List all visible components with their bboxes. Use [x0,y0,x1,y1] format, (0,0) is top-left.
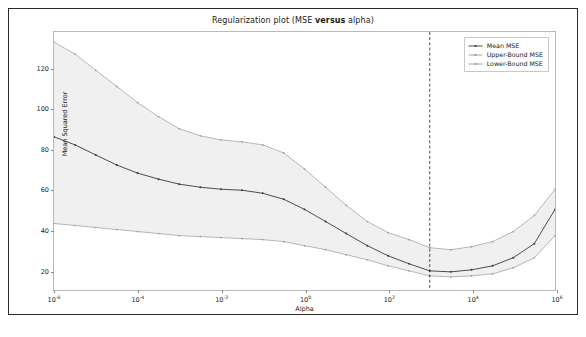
x-tick-mark [473,290,474,293]
series-point [178,128,180,130]
y-tick-mark [51,231,54,232]
series-point [450,271,452,273]
legend-item[interactable]: Mean MSE [468,41,543,50]
legend-item-label: Mean MSE [487,42,520,49]
plot-axes: Mean Squared Error 20406080100120 Alpha … [53,31,556,291]
series-point [325,249,327,251]
series-point [408,263,410,265]
series-point [450,276,452,278]
series-point [220,139,222,141]
x-tick-label: 10-6 [48,295,61,304]
series-point [533,257,535,259]
y-tick-label: 120 [37,65,49,73]
series-point [345,233,347,235]
series-point [471,269,473,271]
series-point [471,275,473,277]
series-point [492,241,494,243]
series-point [387,265,389,267]
series-point [74,144,76,146]
legend-item-label: Lower-Bound MSE [487,60,543,67]
series-point [304,168,306,170]
series-point [366,245,368,247]
series-point [492,265,494,267]
series-point [137,102,139,104]
x-tick-label: 106 [551,295,562,304]
series-point [408,239,410,241]
series-point [220,237,222,239]
series-point [533,215,535,217]
x-tick-label: 10-2 [215,295,228,304]
series-point [199,135,201,137]
chart-title-part-2: alpha) [345,16,374,25]
series-point [366,259,368,261]
x-tick-mark [54,290,55,293]
x-tick-mark [306,290,307,293]
band-area [54,42,555,277]
series-point [325,186,327,188]
y-tick-mark [51,190,54,191]
chart-title-emphasis: versus [315,16,345,25]
series-point [283,241,285,243]
series-point [95,69,97,71]
series-point [262,239,264,241]
series-point [137,231,139,233]
series-point [325,220,327,222]
series-point [116,164,118,166]
series-point [241,238,243,240]
y-tick-mark [51,272,54,273]
x-tick-mark [222,290,223,293]
series-point [116,86,118,88]
confidence-band [54,42,555,277]
chart-title-part-1: Regularization plot (MSE [212,16,315,25]
legend-item[interactable]: Lower-Bound MSE [468,59,543,68]
series-point [178,183,180,185]
series-point [283,152,285,154]
series-point [512,231,514,233]
y-tick-mark [51,109,54,110]
legend-item[interactable]: Upper-Bound MSE [468,50,543,59]
series-point [408,270,410,272]
series-point [512,257,514,259]
series-point [199,236,201,238]
series-point [262,192,264,194]
series-point [241,189,243,191]
x-tick-label: 10-4 [131,295,144,304]
series-point [199,186,201,188]
y-tick-label: 80 [41,146,49,154]
series-point [345,254,347,256]
series-point [304,208,306,210]
y-tick-label: 40 [41,227,49,235]
series-point [429,247,431,249]
series-point [512,267,514,269]
figure-frame: Regularization plot (MSE versus alpha) M… [8,8,578,315]
x-tick-label: 102 [384,295,395,304]
series-point [387,232,389,234]
series-point [137,172,139,174]
series-point [220,188,222,190]
y-tick-mark [51,69,54,70]
legend-swatch-icon [468,60,483,68]
chart-title: Regularization plot (MSE versus alpha) [9,16,577,25]
chart-legend: Mean MSEUpper-Bound MSELower-Bound MSE [464,37,549,72]
legend-item-label: Upper-Bound MSE [487,51,543,58]
legend-swatch-icon [468,51,483,59]
series-point [366,221,368,223]
series-point [471,246,473,248]
y-axis-label: Mean Squared Error [61,79,69,169]
series-point [345,205,347,207]
series-point [74,225,76,227]
series-point [533,243,535,245]
series-point [116,229,118,231]
x-tick-mark [557,290,558,293]
series-point [492,273,494,275]
x-axis-label: Alpha [54,305,555,313]
series-point [241,141,243,143]
series-point [95,227,97,229]
y-tick-label: 100 [37,105,49,113]
series-point [74,53,76,55]
series-point [450,249,452,251]
series-point [158,233,160,235]
series-point [283,198,285,200]
y-tick-mark [51,150,54,151]
x-tick-mark [138,290,139,293]
